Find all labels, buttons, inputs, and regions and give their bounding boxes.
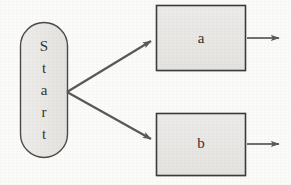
edge-start-to-b: [67, 92, 151, 139]
start-letter-5: t: [42, 127, 46, 142]
start-node-label: S t a r t: [20, 22, 68, 158]
start-letter-4: r: [42, 105, 47, 120]
start-letter-3: a: [41, 83, 48, 98]
edge-start-to-a: [67, 41, 151, 92]
process-node-b-label: b: [156, 136, 246, 151]
start-letter-2: t: [42, 61, 46, 76]
flow-diagram-canvas: S t a r t a b: [0, 0, 291, 185]
start-letter-1: S: [40, 39, 48, 54]
process-node-a-label: a: [156, 31, 246, 46]
